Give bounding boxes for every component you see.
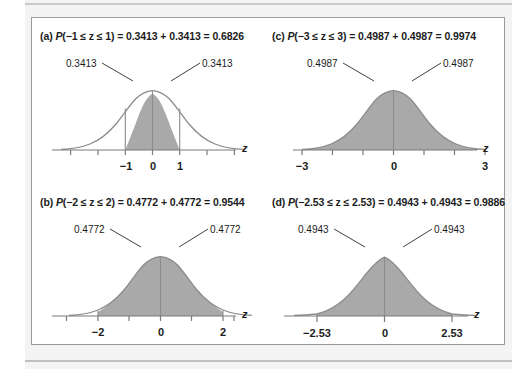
chart-title-a-expression: (−1 ≤ z ≤ 1): [62, 30, 114, 42]
leader-line-b-right: [179, 229, 208, 247]
chart-title-c-equation: = 0.4987 + 0.4987 = 0.9974: [349, 30, 476, 42]
chart-title-d: (d) P(−2.53 ≤ z ≤ 2.53) = 0.4943 + 0.494…: [272, 196, 505, 208]
tick-label-a-right: 1: [170, 160, 190, 172]
chart-title-d-expression: (−2.53 ≤ z ≤ 2.53): [295, 196, 376, 208]
area-label-a-right: 0.3413: [202, 58, 233, 69]
area-label-b-left: 0.4772: [74, 224, 105, 235]
tick-label-b-mid: 0: [151, 326, 171, 338]
x-axis-ticks-b: [67, 316, 235, 321]
chart-title-b: (b) P(−2 ≤ z ≤ 2) = 0.4772 + 0.4772 = 0.…: [40, 196, 244, 208]
area-label-d-right: 0.4943: [434, 224, 465, 235]
chart-title-b-equation: = 0.4772 + 0.4772 = 0.9544: [118, 196, 245, 208]
leader-line-c-right: [412, 63, 441, 81]
tick-label-b-right: 2: [213, 326, 233, 338]
tick-label-c-left: −3: [292, 160, 312, 172]
area-label-c-right: 0.4987: [443, 58, 474, 69]
tick-label-d-mid: 0: [375, 327, 395, 339]
tick-label-d-right: 2.53: [437, 327, 467, 339]
x-axis-ticks-c: [302, 150, 485, 155]
area-label-c-left: 0.4987: [307, 58, 338, 69]
chart-title-a: (a) P(−1 ≤ z ≤ 1) = 0.3413 + 0.3413 = 0.…: [40, 30, 244, 42]
chart-panel-c: (c) P(−3 ≤ z ≤ 3) = 0.4987 + 0.4987 = 0.…: [272, 30, 500, 175]
chart-title-b-expression: (−2 ≤ z ≤ 2): [63, 196, 115, 208]
x-axis-ticks-d: [317, 316, 452, 322]
chart-title-a-equation: = 0.3413 + 0.3413 = 0.6826: [117, 30, 244, 42]
figure-panel: (a) P(−1 ≤ z ≤ 1) = 0.3413 + 0.3413 = 0.…: [31, 17, 505, 345]
tick-label-b-left: −2: [88, 326, 108, 338]
chart-title-b-letter: (b): [40, 196, 53, 208]
x-axis-label-d: z: [474, 308, 480, 320]
area-label-b-right: 0.4772: [210, 224, 241, 235]
tick-label-d-left: −2.53: [300, 327, 334, 339]
chart-title-c: (c) P(−3 ≤ z ≤ 3) = 0.4987 + 0.4987 = 0.…: [272, 30, 476, 42]
leader-line-a-left: [102, 63, 133, 81]
leader-line-d-left: [334, 229, 365, 247]
chart-title-c-letter: (c): [272, 30, 285, 42]
leader-line-c-left: [343, 63, 374, 81]
chart-title-a-letter: (a): [40, 30, 53, 42]
normal-distribution-figure: (a) P(−1 ≤ z ≤ 1) = 0.3413 + 0.3413 = 0.…: [0, 0, 517, 369]
area-label-d-left: 0.4943: [298, 224, 329, 235]
chart-title-d-prob-symbol: P: [288, 196, 295, 208]
leader-line-d-right: [403, 229, 432, 247]
leader-line-a-right: [171, 63, 200, 81]
x-axis-label-c: z: [483, 142, 489, 154]
tick-label-c-right: 3: [475, 160, 495, 172]
chart-title-b-prob-symbol: P: [56, 196, 63, 208]
x-axis-ticks-a: [71, 150, 235, 155]
x-axis-label-a: z: [242, 142, 248, 154]
leader-line-b-left: [110, 229, 141, 247]
chart-title-d-equation: = 0.4943 + 0.4943 = 0.9886: [378, 196, 505, 208]
right-margin-band: [512, 0, 517, 369]
left-margin-band: [0, 0, 25, 369]
bottom-rule: [25, 360, 512, 362]
tick-label-a-left: −1: [116, 160, 136, 172]
x-axis-label-b: z: [242, 308, 248, 320]
chart-title-d-letter: (d): [272, 196, 285, 208]
top-rule: [25, 3, 512, 5]
tick-label-c-mid: 0: [384, 160, 404, 172]
chart-panel-d: (d) P(−2.53 ≤ z ≤ 2.53) = 0.4943 + 0.494…: [272, 196, 500, 341]
chart-panel-a: (a) P(−1 ≤ z ≤ 1) = 0.3413 + 0.3413 = 0.…: [40, 30, 265, 175]
chart-panel-b: (b) P(−2 ≤ z ≤ 2) = 0.4772 + 0.4772 = 0.…: [40, 196, 265, 341]
tick-label-a-mid: 0: [143, 160, 163, 172]
area-label-a-left: 0.3413: [66, 58, 97, 69]
chart-title-c-expression: (−3 ≤ z ≤ 3): [294, 30, 346, 42]
